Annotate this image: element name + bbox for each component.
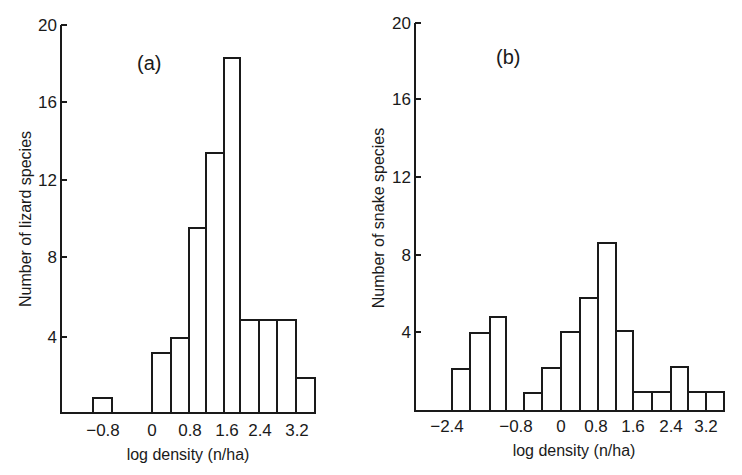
bar	[580, 298, 598, 411]
bar	[240, 320, 259, 413]
y-tick-label: 20	[38, 16, 57, 35]
x-tick-labels: −0.8 0 0.8 1.6 2.4 3.2	[86, 421, 309, 440]
y-tick-label: 16	[38, 93, 57, 112]
x-tick-label: 3.2	[285, 421, 309, 440]
bar	[616, 331, 633, 411]
panel-b-snakes: (b) Number of snake species	[370, 14, 725, 459]
y-axis-label: Number of lizard species	[17, 131, 34, 307]
histogram-bars	[452, 243, 724, 411]
figure: (a) Number of lizard species 20	[0, 0, 742, 475]
x-axis-label: log density (n/ha)	[513, 442, 636, 459]
bar	[490, 317, 506, 411]
bar	[524, 393, 542, 411]
x-tick-label: 1.6	[621, 417, 645, 436]
bar	[206, 153, 224, 413]
x-tick-label: 0.8	[584, 417, 608, 436]
bar	[688, 392, 706, 411]
y-tick-label: 8	[402, 246, 411, 265]
y-tick-labels: 20 16 12 8 4	[392, 14, 411, 342]
bar	[470, 333, 490, 411]
x-tick-label: 0	[147, 421, 156, 440]
y-tick-label: 20	[392, 14, 411, 33]
y-tick-label: 8	[48, 248, 57, 267]
bar	[296, 378, 315, 413]
x-tick-label: −2.4	[430, 417, 464, 436]
bar	[277, 320, 296, 413]
x-tick-label: 2.4	[659, 417, 683, 436]
y-tick-label: 12	[392, 168, 411, 187]
y-tick-label: 4	[48, 328, 57, 347]
bar	[633, 392, 652, 411]
bar	[542, 368, 561, 411]
bar	[452, 369, 470, 411]
x-tick-label: −0.8	[499, 417, 533, 436]
panel-a-lizards: (a) Number of lizard species 20	[17, 16, 316, 463]
bar	[189, 228, 206, 413]
x-tick-label: 3.2	[694, 417, 718, 436]
x-tick-label: −0.8	[86, 421, 120, 440]
bar	[224, 58, 240, 413]
bar	[706, 392, 724, 411]
bar	[152, 353, 171, 413]
y-tick-labels: 20 16 12 8 4	[38, 16, 57, 347]
y-tick-label: 12	[38, 171, 57, 190]
y-axis-label: Number of snake species	[370, 128, 387, 309]
x-axis-label: log density (n/ha)	[127, 446, 250, 463]
x-tick-label: 2.4	[248, 421, 272, 440]
y-tick-label: 16	[392, 90, 411, 109]
x-tick-label: 0.8	[178, 421, 202, 440]
panel-a-label: (a)	[137, 52, 161, 74]
y-tick-label: 4	[402, 323, 411, 342]
bar	[171, 338, 189, 413]
histogram-bars	[93, 58, 315, 413]
bar	[652, 392, 671, 411]
x-tick-labels: −2.4 −0.8 0 0.8 1.6 2.4 3.2	[430, 417, 718, 436]
bar	[259, 320, 277, 413]
bar	[93, 398, 112, 413]
x-tick-label: 1.6	[215, 421, 239, 440]
bar	[671, 367, 688, 411]
panel-b-label: (b)	[496, 46, 520, 68]
bar	[561, 332, 580, 411]
x-tick-label: 0	[556, 417, 565, 436]
bar	[598, 243, 616, 411]
